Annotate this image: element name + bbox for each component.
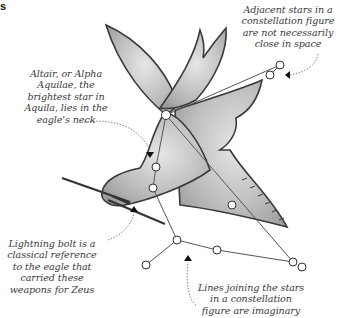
adjacent-stars-annotation: Adjacent stars in a constellation figure…: [234, 4, 342, 50]
star: [276, 61, 284, 69]
star: [173, 236, 181, 244]
star: [152, 163, 160, 171]
star-altair: [162, 111, 171, 120]
lines-joining-annotation: Lines joining the stars in a constellati…: [196, 282, 306, 316]
star: [213, 246, 221, 254]
star: [228, 201, 236, 209]
star: [266, 71, 274, 79]
star: [149, 184, 157, 192]
star: [142, 261, 150, 269]
constellation-diagram: s: [0, 0, 344, 318]
lightning-annotation: Lightning bolt is a classical reference …: [4, 238, 100, 295]
star: [289, 258, 297, 266]
star: [298, 263, 306, 271]
altair-annotation: Altair, or Alpha Aquilae, the brightest …: [16, 68, 116, 125]
